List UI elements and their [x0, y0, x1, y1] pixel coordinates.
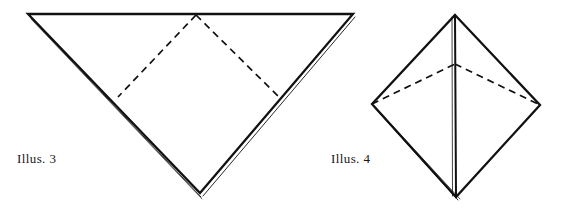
- origami-illustrations-svg: [0, 0, 566, 213]
- illus-3-figure: [28, 14, 355, 199]
- illus-3-outline: [28, 14, 353, 193]
- illus-3-dashed-folds: [118, 15, 281, 99]
- illus-4-double-edges: [374, 17, 460, 200]
- illus-3-left-edge-inner-2: [31, 19, 202, 199]
- illus-3-caption: Illus. 3: [17, 152, 56, 165]
- illus-3-fold-left: [118, 15, 196, 97]
- illus-4-caption: Illus. 4: [331, 152, 370, 165]
- illus-3-double-edges: [30, 17, 355, 199]
- illus-4-center-crease-inner: [452, 17, 453, 196]
- illus-4-fold-right: [455, 64, 540, 105]
- figure-sheet: Illus. 3 Illus. 4: [0, 0, 566, 213]
- illus-4-figure: [372, 15, 540, 200]
- illus-4-fold-left: [372, 64, 455, 104]
- illus-3-fold-right: [196, 15, 281, 99]
- illus-4-center-crease: [455, 15, 456, 197]
